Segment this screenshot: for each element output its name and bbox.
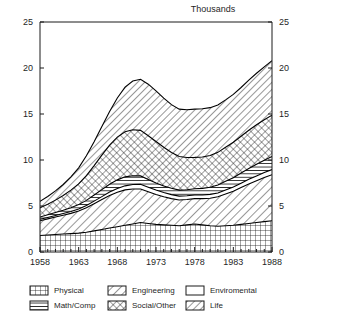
x-axis-label: 1963 — [69, 257, 89, 267]
x-axis-label: 1983 — [223, 257, 243, 267]
legend-swatch — [108, 301, 126, 310]
x-axis-label: 1988 — [262, 257, 282, 267]
chart-legend: PhysicalEngineeringEnviromentalMath/Comp… — [30, 286, 257, 310]
y-axis-label-right: 0 — [279, 247, 284, 257]
x-axis-label: 1968 — [107, 257, 127, 267]
unit-label: Thousands — [191, 4, 236, 14]
legend-label: Life — [210, 301, 223, 310]
x-axis-label: 1978 — [185, 257, 205, 267]
stacked-area-chart: 0055101015152020252519581963196819731978… — [0, 0, 342, 327]
chart-figure: 0055101015152020252519581963196819731978… — [0, 0, 342, 327]
y-axis-label-right: 10 — [279, 155, 289, 165]
x-axis-label: 1973 — [146, 257, 166, 267]
legend-swatch — [186, 286, 204, 295]
legend-swatch — [108, 286, 126, 295]
legend-label: Enviromental — [210, 286, 257, 295]
legend-item-life: Life — [186, 301, 223, 310]
legend-item-enviromental: Enviromental — [186, 286, 257, 295]
x-axis-label: 1958 — [30, 257, 50, 267]
legend-swatch — [186, 301, 204, 310]
legend-label: Social/Other — [132, 301, 176, 310]
legend-swatch — [30, 286, 48, 295]
y-axis-label-left: 15 — [23, 109, 33, 119]
y-axis-label-right: 5 — [279, 201, 284, 211]
legend-label: Engineering — [132, 286, 175, 295]
legend-item-physical: Physical — [30, 286, 84, 295]
y-axis-label-left: 5 — [28, 201, 33, 211]
area-layers — [40, 61, 272, 252]
legend-swatch — [30, 301, 48, 310]
y-axis-label-left: 10 — [23, 155, 33, 165]
y-axis-label-right: 15 — [279, 109, 289, 119]
legend-item-engineering: Engineering — [108, 286, 175, 295]
legend-label: Math/Comp — [54, 301, 96, 310]
y-axis-label-left: 25 — [23, 17, 33, 27]
legend-item-social-other: Social/Other — [108, 301, 176, 310]
y-axis-label-right: 25 — [279, 17, 289, 27]
legend-label: Physical — [54, 286, 84, 295]
y-axis-label-left: 20 — [23, 63, 33, 73]
y-axis-label-left: 0 — [28, 247, 33, 257]
legend-item-math-comp: Math/Comp — [30, 301, 96, 310]
y-axis-label-right: 20 — [279, 63, 289, 73]
